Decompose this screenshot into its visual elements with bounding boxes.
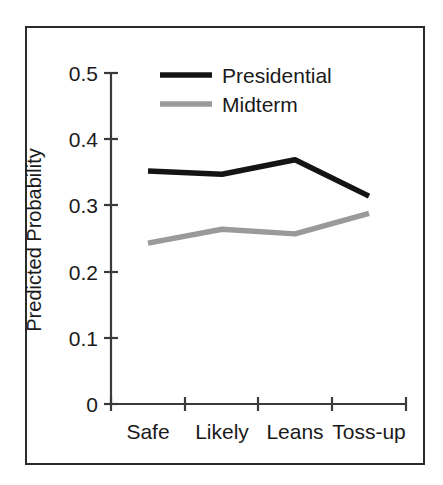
x-tick-label-leans: Leans [266, 421, 323, 442]
series-line-presidential [148, 160, 369, 196]
x-tick-label-tossup: Toss-up [332, 421, 406, 442]
y-tick-label-2: 0.3 [56, 195, 98, 216]
x-tick-label-safe: Safe [126, 421, 169, 442]
series-line-midterm [148, 213, 369, 243]
y-tick-label-4: 0.1 [56, 328, 98, 349]
y-tick-label-1: 0.4 [56, 129, 98, 150]
legend-label-midterm: Midterm [222, 94, 298, 115]
y-axis-label: Predicted Probability [23, 148, 46, 331]
legend-label-presidential: Presidential [222, 65, 332, 86]
y-tick-label-0: 0.5 [56, 63, 98, 84]
figure-container: 0.5 0.4 0.3 0.2 0.1 0 Safe Likely Leans … [0, 0, 443, 485]
y-tick-label-5: 0 [56, 394, 98, 415]
x-tick-label-likely: Likely [195, 421, 249, 442]
y-tick-label-3: 0.2 [56, 262, 98, 283]
